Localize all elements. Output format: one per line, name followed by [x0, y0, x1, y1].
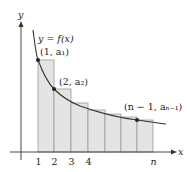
rectangle-4: [88, 110, 105, 152]
point-1: [36, 58, 40, 62]
tick-label-3: 3: [69, 156, 75, 167]
tick-label-2: 2: [52, 156, 58, 167]
tick-label-n: n: [151, 156, 157, 167]
point-2: [52, 87, 56, 91]
riemann-sum-diagram: y x y = f(x) (1, a₁) (2, a₂) (n − 1, aₙ₋…: [0, 0, 190, 172]
point-label-n-minus-1: (n − 1, aₙ₋₁): [124, 101, 182, 112]
rectangle-1: [38, 60, 54, 152]
tick-label-4: 4: [86, 156, 92, 167]
rectangle-3: [71, 103, 88, 152]
curve-label: y = f(x): [37, 33, 74, 44]
point-n-minus-1: [135, 118, 139, 122]
point-label-1: (1, a₁): [40, 46, 69, 57]
tick-label-1: 1: [36, 156, 42, 167]
y-axis-label: y: [17, 9, 24, 20]
rectangle-2: [54, 89, 71, 152]
rectangle-5: [105, 114, 121, 152]
x-axis-label: x: [178, 146, 184, 157]
rectangle-7: [137, 120, 153, 152]
point-label-2: (2, a₂): [59, 76, 88, 87]
x-axis-arrow-icon: [171, 150, 177, 155]
rectangle-6: [121, 117, 137, 152]
y-axis-arrow-icon: [19, 21, 24, 27]
